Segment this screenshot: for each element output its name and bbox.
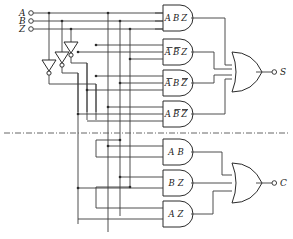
junction-g2-z <box>129 58 132 61</box>
junction-b-tap <box>61 20 64 23</box>
junction-a-bus <box>107 12 110 15</box>
output-label-c: C <box>280 178 287 188</box>
junction-z-tap <box>70 28 73 31</box>
junction-g4-bbar <box>77 113 80 116</box>
junction-g6-b <box>119 176 122 179</box>
inverter-b[interactable] <box>55 52 78 112</box>
junction-z-bus <box>129 28 132 31</box>
junction-g5-a <box>107 145 110 148</box>
junction-g2-bbar <box>77 51 80 54</box>
circuit-diagram-page: A B Z <box>0 0 293 239</box>
junction-g4-a <box>107 106 110 109</box>
output-label-s: S <box>280 67 286 77</box>
logic-circuit-svg: A B Z <box>0 0 293 239</box>
or-gate-carry[interactable] <box>232 163 277 203</box>
and-gate-nabnz[interactable]: ABZ <box>155 70 232 96</box>
junction-b-bus <box>119 20 122 23</box>
junction-g3-zbar <box>86 89 89 92</box>
inverter-a[interactable] <box>42 60 96 112</box>
or-gate-sum[interactable] <box>232 52 277 92</box>
input-terminal-a[interactable] <box>29 11 175 16</box>
junction-a-tap <box>48 12 51 15</box>
input-terminal-b[interactable] <box>29 19 175 24</box>
junction-g5-b <box>119 139 122 142</box>
junction-g3-abar <box>95 75 98 78</box>
junction-g6-z <box>77 187 80 190</box>
and-gate-nanbz[interactable]: ABZ <box>155 39 232 69</box>
junction-g3-b <box>119 82 122 85</box>
input-terminal-z[interactable] <box>29 27 175 32</box>
junction-g2-abar <box>95 44 98 47</box>
and-gate-bz[interactable]: BZ <box>155 170 232 196</box>
and-gate-abz-label: ABZ <box>164 13 188 23</box>
and-gate-nabnz-label: ABZ <box>164 78 188 88</box>
and-gate-anbnz-label: ABZ <box>164 109 188 119</box>
and-gate-nanbz-label: ABZ <box>164 47 188 57</box>
input-label-z: Z <box>18 24 26 34</box>
